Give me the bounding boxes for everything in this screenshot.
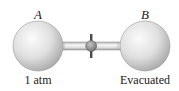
- flask-a-label: A: [34, 8, 42, 21]
- stopcock-valve: [86, 34, 97, 58]
- flask-a-pressure-label: 1 atm: [25, 74, 52, 86]
- flask-b-label: B: [141, 8, 149, 21]
- flask-b: [120, 21, 170, 71]
- flask-b-state-label: Evacuated: [120, 74, 170, 86]
- stopcock-body: [86, 41, 97, 52]
- flask-a: [13, 21, 63, 71]
